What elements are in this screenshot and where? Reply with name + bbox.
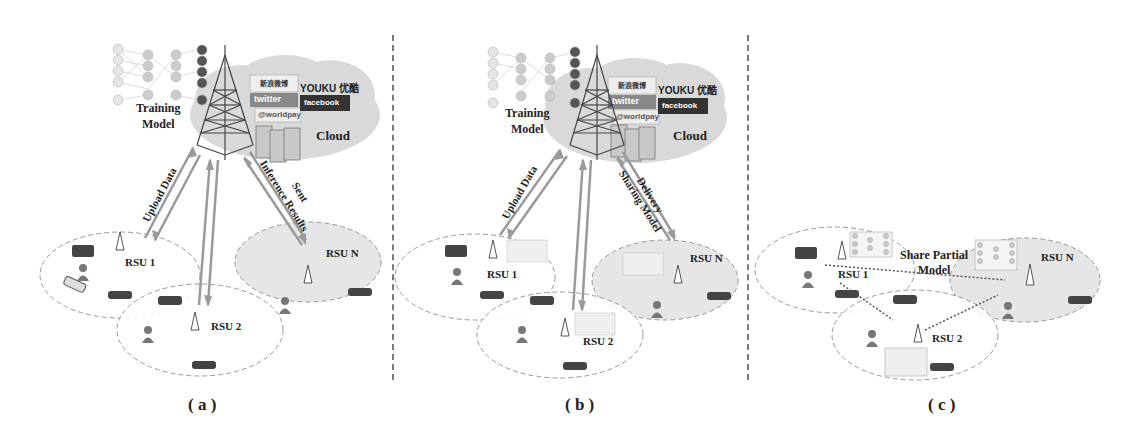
worldpay-logo: @worldpay: [258, 110, 301, 119]
youku-logo: YOUKU 优酷: [658, 82, 717, 97]
training-label-line1: Training: [505, 105, 549, 121]
share-label-line2: Model: [900, 263, 968, 278]
twitter-logo: twitter: [612, 96, 639, 106]
cloud-label: Cloud: [673, 128, 707, 144]
rsu-2-label: RSU 2: [211, 320, 241, 332]
youku-logo: YOUKU 优酷: [300, 80, 359, 95]
panel-a: 新浪微博 YOUKU 优酷 twitter facebook @worldpay…: [0, 0, 390, 434]
rsu-1-label: RSU 1: [487, 268, 517, 280]
panel-c: Share Partial Model RSU 1 RSU 2 RSU N ( …: [750, 0, 1125, 434]
training-model-label: Training Model: [505, 105, 549, 137]
server-icon: [611, 125, 655, 161]
training-model-label: Training Model: [136, 100, 180, 132]
facebook-logo: facebook: [304, 98, 339, 107]
neural-network-icon: [113, 44, 207, 105]
weibo-logo: 新浪微博: [260, 78, 288, 88]
rsu-n-label: RSU N: [1041, 251, 1074, 263]
share-partial-model-label: Share Partial Model: [900, 248, 968, 278]
server-icon: [256, 126, 300, 162]
divider-1: [392, 35, 394, 380]
panel-c-graphics: [750, 0, 1125, 434]
worldpay-logo: @worldpay: [616, 112, 659, 121]
divider-2: [747, 35, 749, 380]
caption-c: ( c ): [928, 395, 955, 415]
cloud-label: Cloud: [316, 128, 350, 144]
caption-a: ( a ): [188, 395, 216, 415]
rsu-2-coverage: [477, 292, 643, 378]
facebook-logo: facebook: [662, 101, 697, 110]
panel-b-graphics: [395, 0, 745, 434]
rsu-1-label: RSU 1: [125, 256, 155, 268]
share-label-line1: Share Partial: [900, 248, 968, 263]
rsu-2-label: RSU 2: [932, 332, 962, 344]
panel-a-graphics: [0, 0, 390, 434]
twitter-logo: twitter: [254, 94, 281, 104]
rsu-n-label: RSU N: [690, 252, 723, 264]
training-label-line2: Model: [505, 121, 549, 137]
panel-b: 新浪微博 YOUKU 优酷 twitter facebook @worldpay…: [395, 0, 745, 434]
rsu-n-label: RSU N: [326, 247, 359, 259]
rsu-1-label: RSU 1: [838, 268, 868, 280]
weibo-logo: 新浪微博: [618, 80, 646, 90]
training-label-line2: Model: [136, 116, 180, 132]
rsu-2-label: RSU 2: [583, 335, 613, 347]
caption-b: ( b ): [565, 395, 594, 415]
training-label-line1: Training: [136, 100, 180, 116]
